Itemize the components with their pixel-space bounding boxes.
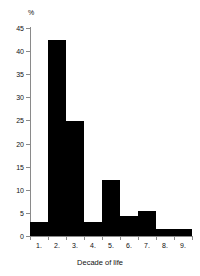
- y-tick-label: 10: [16, 186, 24, 193]
- bar-series: [30, 28, 192, 236]
- x-tick-mark: [102, 237, 103, 240]
- y-tick-label: 0: [20, 233, 24, 240]
- y-tick-label: 25: [16, 117, 24, 124]
- x-tick-mark: [48, 237, 49, 240]
- x-tick-label: 1.: [36, 242, 42, 250]
- bar-5: [102, 180, 120, 236]
- y-tick-label: 45: [16, 25, 24, 32]
- y-tick-mark: [26, 120, 30, 121]
- y-tick-label: 30: [16, 94, 24, 101]
- y-tick-label: 35: [16, 71, 24, 78]
- y-tick-mark: [26, 144, 30, 145]
- bar-4: [84, 222, 102, 236]
- x-tick-mark: [174, 237, 175, 240]
- x-tick-group: 1.2.3.4.5.6.7.8.9.: [30, 237, 192, 253]
- y-tick-label: 5: [20, 209, 24, 216]
- x-tick-mark: [138, 237, 139, 240]
- x-tick-mark: [66, 237, 67, 240]
- y-axis-unit-label: %: [28, 8, 34, 17]
- x-tick-label: 2.: [54, 242, 60, 250]
- y-tick-mark: [26, 213, 30, 214]
- y-tick-label: 40: [16, 48, 24, 55]
- bar-1: [30, 222, 48, 236]
- bar-8: [156, 229, 174, 236]
- x-tick-label: 5.: [108, 242, 114, 250]
- x-tick-mark: [156, 237, 157, 240]
- x-tick-label: 6.: [126, 242, 132, 250]
- y-tick-mark: [26, 190, 30, 191]
- x-tick-label: 4.: [90, 242, 96, 250]
- y-tick-label: 15: [16, 163, 24, 170]
- bar-2: [48, 40, 66, 236]
- x-tick-mark: [30, 237, 31, 240]
- bar-3: [66, 121, 84, 236]
- x-tick-mark: [120, 237, 121, 240]
- x-tick-label: 7.: [144, 242, 150, 250]
- x-tick-label: 8.: [162, 242, 168, 250]
- y-tick-mark: [26, 51, 30, 52]
- bar-9: [174, 229, 192, 236]
- y-tick-mark: [26, 28, 30, 29]
- bar-6: [120, 216, 138, 236]
- y-tick-mark: [26, 97, 30, 98]
- histogram-figure: % 051015202530354045 1.2.3.4.5.6.7.8.9. …: [0, 0, 200, 276]
- x-axis-title: Decade of life: [0, 258, 200, 268]
- x-tick-mark: [192, 237, 193, 240]
- y-tick-mark: [26, 167, 30, 168]
- x-tick-label: 9.: [180, 242, 186, 250]
- bar-7: [138, 211, 156, 236]
- y-tick-label: 20: [16, 140, 24, 147]
- x-tick-mark: [84, 237, 85, 240]
- plot-area: 051015202530354045: [30, 28, 192, 236]
- y-tick-mark: [26, 74, 30, 75]
- x-tick-label: 3.: [72, 242, 78, 250]
